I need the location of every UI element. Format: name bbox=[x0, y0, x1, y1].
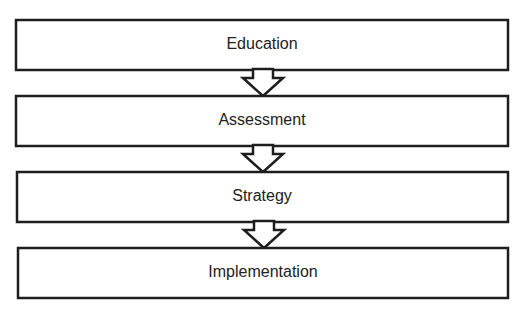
arrow-down-icon bbox=[244, 221, 284, 248]
arrow-down-icon bbox=[243, 145, 283, 172]
step-label-assessment: Assessment bbox=[218, 110, 305, 130]
step-label-implementation: Implementation bbox=[208, 262, 317, 282]
flowchart: Education Assessment Strategy Implementa… bbox=[0, 0, 529, 310]
step-label-strategy: Strategy bbox=[232, 186, 292, 206]
step-label-education: Education bbox=[226, 34, 297, 54]
arrow-down-icon bbox=[243, 69, 283, 96]
